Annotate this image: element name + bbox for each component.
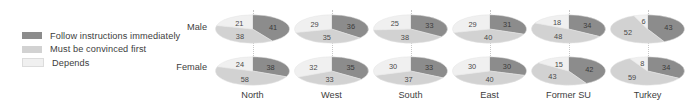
chart-column-south: 333825333730South — [371, 0, 450, 106]
x-axis-tick-turkey: Turkey — [608, 90, 687, 100]
pie-cell-south-male: 333825 — [373, 14, 448, 44]
row-label-female: Female — [147, 62, 207, 72]
ellipse-pie — [373, 56, 448, 86]
pie-cell-former-su-male: 344818 — [531, 14, 606, 44]
chart-column-north: 413821385824North — [213, 0, 292, 106]
ellipse-pie — [531, 56, 606, 86]
chart-column-turkey: 4352634598Turkey — [608, 0, 687, 106]
pie-cell-turkey-male: 43526 — [610, 14, 685, 44]
pie-cell-east-female: 304030 — [452, 56, 527, 86]
plot-area: 413821385824North363529353332West3338253… — [213, 0, 687, 106]
ellipse-pie — [215, 14, 290, 44]
pie-cell-former-su-female: 424315 — [531, 56, 606, 86]
ellipse-pie — [452, 56, 527, 86]
x-axis-tick-west: West — [292, 90, 371, 100]
legend-label-follow: Follow instructions immediately — [50, 31, 180, 41]
ellipse-pie — [294, 56, 369, 86]
pie-cell-east-male: 314029 — [452, 14, 527, 44]
x-axis-tick-south: South — [371, 90, 450, 100]
legend-swatch-follow — [22, 32, 42, 39]
legend-label-convinced: Must be convinced first — [50, 44, 146, 54]
ellipse-pie — [531, 14, 606, 44]
pie-cell-west-female: 353332 — [294, 56, 369, 86]
pie-slice-depends — [374, 15, 411, 30]
row-label-male: Male — [147, 22, 207, 32]
x-axis-tick-former-su: Former SU — [529, 90, 608, 100]
pie-cell-west-male: 363529 — [294, 14, 369, 44]
chart-column-west: 363529353332West — [292, 0, 371, 106]
pie-cell-north-female: 385824 — [215, 56, 290, 86]
x-axis-tick-east: East — [450, 90, 529, 100]
ellipse-pie — [452, 14, 527, 44]
ellipse-pie — [294, 14, 369, 44]
ellipse-pie-grid-chart: Follow instructions immediatelyMust be c… — [0, 0, 687, 106]
legend-label-depends: Depends — [52, 58, 89, 68]
ellipse-pie — [215, 56, 290, 86]
ellipse-pie — [610, 14, 685, 44]
ellipse-pie — [373, 14, 448, 44]
legend-swatch-depends — [22, 58, 44, 67]
legend-item-convinced: Must be convinced first — [22, 43, 202, 57]
legend-swatch-convinced — [22, 46, 42, 53]
chart-column-east: 314029304030East — [450, 0, 529, 106]
ellipse-pie — [610, 56, 685, 86]
pie-cell-south-female: 333730 — [373, 56, 448, 86]
x-axis-tick-north: North — [213, 90, 292, 100]
pie-cell-north-male: 413821 — [215, 14, 290, 44]
pie-cell-turkey-female: 34598 — [610, 56, 685, 86]
chart-column-former-su: 344818424315Former SU — [529, 0, 608, 106]
